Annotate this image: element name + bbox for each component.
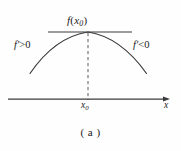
left-derivative-relation: >0: [19, 39, 30, 50]
figure-container: f(x0) f′>0 f′<0 x0 x ( a ): [0, 0, 181, 151]
peak-value-label: f(x0): [67, 15, 87, 28]
figure-caption: ( a ): [0, 126, 181, 138]
right-derivative-label: f′<0: [133, 40, 149, 51]
right-derivative-relation: <0: [138, 39, 149, 50]
peak-close-paren: ): [83, 14, 87, 26]
left-derivative-label: f′>0: [14, 40, 30, 51]
x-tick-subscript: 0: [85, 104, 88, 111]
x-tick-label: x0: [81, 101, 89, 112]
x-axis-label: x: [164, 101, 168, 111]
